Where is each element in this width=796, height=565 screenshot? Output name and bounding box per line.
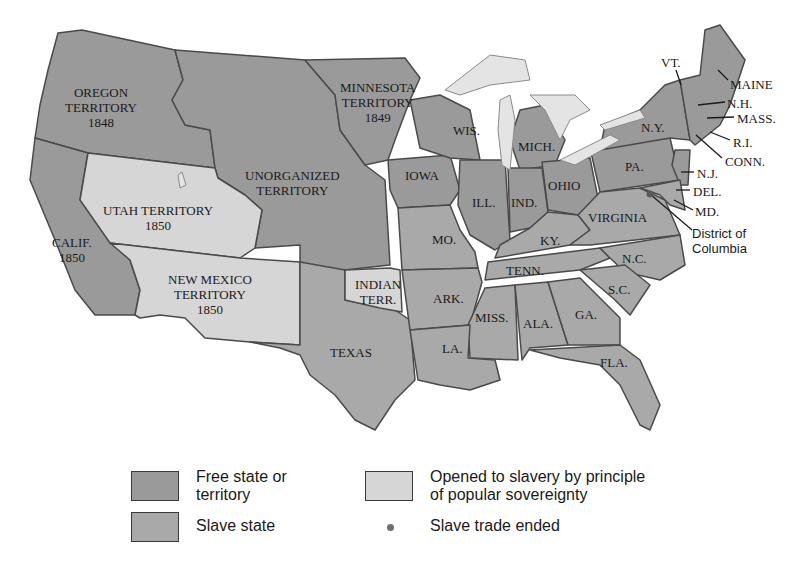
lake-michigan — [498, 95, 515, 170]
label-ohio: OHIO — [548, 178, 581, 193]
legend-swatch-popular-sovereignty — [365, 471, 413, 501]
label-mich: MICH. — [518, 139, 555, 154]
indian-line2: TERR. — [355, 292, 401, 307]
slave-trade-ended-dot — [647, 191, 654, 198]
label-utah: UTAH TERRITORY 1850 — [103, 203, 213, 233]
region-fla — [530, 345, 660, 430]
label-ky: KY. — [540, 233, 560, 248]
legend-popular-line1: Opened to slavery by principle — [430, 468, 645, 486]
label-ri: R.I. — [733, 135, 753, 150]
label-nh: N.H. — [727, 96, 752, 111]
label-maine: MAINE — [730, 77, 773, 92]
label-wis: WIS. — [453, 123, 480, 138]
label-ill: ILL. — [472, 195, 495, 210]
calif-name: CALIF. — [52, 235, 92, 250]
label-la: LA. — [442, 341, 463, 356]
oregon-year: 1848 — [65, 115, 137, 130]
legend-slave-label: Slave state — [196, 517, 275, 535]
label-indian: INDIAN TERR. — [355, 277, 401, 307]
dc-line1: District of — [692, 226, 747, 241]
label-sc: S.C. — [608, 282, 630, 297]
legend-dot-icon — [387, 524, 394, 531]
legend-free-line2: territory — [196, 486, 287, 504]
label-ark: ARK. — [433, 291, 464, 306]
label-virginia: VIRGINIA — [588, 210, 647, 225]
label-unorganized: UNORGANIZED TERRITORY — [245, 168, 340, 198]
oregon-name: OREGON — [65, 85, 137, 100]
minnesota-name: MINNESOTA — [340, 80, 416, 95]
dc-line2: Columbia — [692, 241, 747, 256]
legend-free-line1: Free state or — [196, 468, 287, 486]
label-ga: GA. — [575, 307, 597, 322]
label-ind: IND. — [511, 195, 537, 210]
legend-swatch-slave — [131, 512, 179, 542]
label-calif: CALIF. 1850 — [52, 235, 92, 265]
legend-free-label: Free state or territory — [196, 468, 287, 504]
label-ala: ALA. — [523, 316, 553, 331]
label-minnesota: MINNESOTA TERRITORY 1849 — [340, 80, 416, 125]
unorganized-name: UNORGANIZED — [245, 168, 340, 183]
minnesota-line2: TERRITORY — [340, 95, 416, 110]
label-miss: MISS. — [475, 310, 509, 325]
label-nj: N.J. — [697, 166, 718, 181]
label-vt: VT. — [661, 55, 681, 70]
legend-swatch-free — [131, 471, 179, 501]
utah-name: UTAH TERRITORY — [103, 203, 213, 218]
label-new-mexico: NEW MEXICO TERRITORY 1850 — [168, 272, 252, 317]
label-conn: CONN. — [725, 154, 765, 169]
new-mexico-line2: TERRITORY — [168, 287, 252, 302]
map-legend: Free state or territory Slave state Open… — [0, 468, 796, 558]
utah-year: 1850 — [103, 218, 213, 233]
label-nc: N.C. — [622, 251, 647, 266]
minnesota-year: 1849 — [340, 110, 416, 125]
legend-popular-line2: of popular sovereignty — [430, 486, 645, 504]
indian-name: INDIAN — [355, 277, 401, 292]
lake-superior — [445, 55, 530, 95]
legend-trade-label: Slave trade ended — [430, 517, 560, 535]
label-fla: FLA. — [600, 355, 628, 370]
calif-year: 1850 — [52, 250, 92, 265]
label-ny: N.Y. — [641, 120, 665, 135]
label-dc: District of Columbia — [692, 226, 747, 256]
label-iowa: IOWA — [405, 168, 439, 183]
label-pa: PA. — [625, 159, 644, 174]
oregon-line2: TERRITORY — [65, 100, 137, 115]
new-mexico-year: 1850 — [168, 302, 252, 317]
label-oregon: OREGON TERRITORY 1848 — [65, 85, 137, 130]
label-tenn: TENN. — [506, 263, 544, 278]
legend-popular-label: Opened to slavery by principle of popula… — [430, 468, 645, 504]
unorganized-line2: TERRITORY — [245, 183, 340, 198]
label-del: DEL. — [693, 184, 722, 199]
label-mass: MASS. — [737, 111, 776, 126]
label-mo: MO. — [432, 232, 456, 247]
new-mexico-name: NEW MEXICO — [168, 272, 252, 287]
label-md: MD. — [695, 204, 719, 219]
label-texas: TEXAS — [330, 345, 372, 360]
